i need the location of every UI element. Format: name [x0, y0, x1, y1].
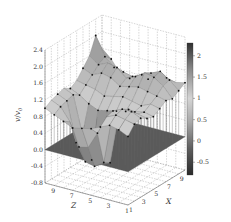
svg-text:1: 1: [129, 206, 133, 213]
svg-text:1.2: 1.2: [33, 96, 43, 103]
y-axis-label: Z: [70, 201, 77, 210]
svg-text:-0.5: -0.5: [197, 158, 209, 165]
svg-text:-0.8: -0.8: [31, 179, 43, 186]
svg-text:9: 9: [180, 175, 184, 182]
svg-text:5: 5: [88, 197, 92, 204]
colorbar: 21.510.50-0.5: [187, 43, 209, 175]
svg-text:0.8: 0.8: [33, 113, 43, 120]
svg-text:1.6: 1.6: [33, 79, 43, 86]
svg-text:3: 3: [107, 202, 111, 209]
svg-text:7: 7: [70, 192, 74, 199]
z-axis-label: v/v0: [13, 107, 23, 122]
svg-text:2.4: 2.4: [33, 46, 43, 53]
svg-text:-0.4: -0.4: [31, 162, 43, 169]
svg-text:0.0: 0.0: [33, 146, 43, 153]
svg-text:9: 9: [51, 187, 55, 194]
svg-text:1: 1: [197, 94, 201, 101]
svg-text:5: 5: [154, 190, 158, 197]
svg-text:v/v0: v/v0: [13, 107, 23, 122]
svg-text:1: 1: [125, 207, 129, 214]
surface-plot: 2.42.01.61.20.80.40.0-0.4-0.81357913579 …: [0, 0, 231, 222]
svg-text:0: 0: [197, 137, 201, 144]
svg-text:1.5: 1.5: [197, 73, 207, 80]
svg-text:7: 7: [167, 183, 171, 190]
svg-text:2: 2: [197, 52, 201, 59]
svg-text:0.4: 0.4: [33, 129, 43, 136]
x-axis-label: X: [165, 197, 172, 206]
svg-text:0.5: 0.5: [197, 116, 207, 123]
svg-text:3: 3: [142, 198, 146, 205]
svg-text:2.0: 2.0: [33, 63, 43, 70]
